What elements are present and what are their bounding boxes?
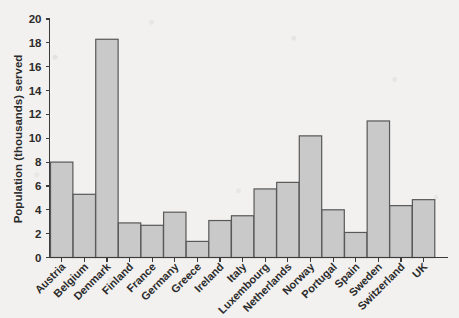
bar	[345, 232, 367, 257]
bar	[73, 194, 95, 257]
bar	[118, 223, 140, 258]
bar	[254, 189, 276, 258]
chart-canvas: Population (thousands) served 0246810121…	[0, 0, 459, 318]
bar	[390, 206, 412, 258]
bar	[96, 39, 118, 257]
bar	[141, 225, 163, 257]
y-axis-ticks: 02468101214161820	[29, 13, 50, 264]
bar	[51, 162, 73, 257]
y-tick-label: 6	[35, 180, 41, 192]
y-tick-label: 2	[35, 228, 41, 240]
bar	[209, 221, 231, 258]
bar	[299, 136, 321, 258]
bar	[412, 200, 434, 258]
y-tick-label: 16	[29, 61, 42, 73]
y-tick-label: 14	[29, 85, 42, 97]
y-axis-title: Population (thousands) served	[12, 55, 24, 224]
y-tick-label: 4	[35, 204, 42, 216]
y-axis-title-label: Population (thousands) served	[12, 55, 24, 224]
bar-chart: Population (thousands) served 0246810121…	[0, 0, 459, 318]
y-tick-label: 8	[35, 156, 42, 168]
bar	[367, 121, 389, 258]
y-tick-label: 18	[29, 37, 42, 49]
y-tick-label: 12	[29, 108, 42, 120]
y-tick-label: 10	[29, 132, 42, 144]
bar	[277, 182, 299, 257]
x-tick-label: UK	[410, 260, 430, 280]
bar-series	[51, 39, 435, 257]
x-axis-ticks: AustriaBelgiumDenmarkFinlandFranceGerman…	[32, 258, 429, 317]
bar	[231, 216, 253, 258]
bar	[186, 241, 208, 257]
y-tick-label: 20	[29, 13, 42, 25]
bar	[164, 212, 186, 257]
bar	[322, 210, 344, 258]
y-tick-label: 0	[35, 252, 41, 264]
